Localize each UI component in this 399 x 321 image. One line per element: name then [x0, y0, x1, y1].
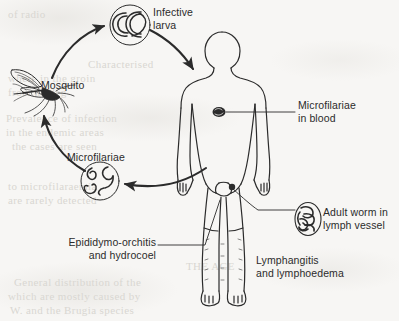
microfilariae-worms [84, 167, 113, 195]
label-microfilariae-cycle: Microfilariae [67, 151, 125, 164]
arrow-larva-to-human [150, 30, 193, 69]
infective-larva-worms [113, 12, 146, 37]
microfilariae-blood-blob [213, 107, 226, 117]
label-microfilariae-in-blood-line2: in blood [298, 112, 356, 125]
label-adult-worm-line2: lymph vessel [323, 219, 388, 232]
diagram-canvas: of radio Characterised where in the groi… [0, 0, 399, 321]
groin-dot [229, 184, 235, 190]
label-microfilariae-in-blood: Microfilariae in blood [298, 99, 356, 124]
label-infective-larva: Infective larva [153, 6, 193, 31]
leader-line-epididymo [158, 200, 220, 245]
label-infective-larva-line2: larva [153, 19, 193, 32]
label-adult-worm: Adult worm in lymph vessel [323, 206, 388, 231]
arrow-mosquito-to-larva [52, 26, 104, 78]
label-epididymo-orchitis-line2: and hydrocoel [22, 249, 156, 262]
label-microfilariae-in-blood-line1: Microfilariae [298, 99, 356, 112]
adult-worm-coils [298, 207, 314, 231]
label-infective-larva-line1: Infective [153, 6, 193, 19]
label-lymphangitis-line1: Lymphangitis [256, 254, 344, 267]
label-lymphangitis-line2: and lymphoedema [256, 267, 344, 280]
label-mosquito: Mosquito [41, 79, 84, 92]
mosquito-illustration [11, 70, 75, 116]
label-epididymo-orchitis-line1: Epididymo-orchitis [22, 236, 156, 249]
label-lymphangitis: Lymphangitis and lymphoedema [256, 254, 344, 279]
label-adult-worm-line1: Adult worm in [323, 206, 388, 219]
arrow-human-to-microfilariae [125, 168, 206, 186]
label-epididymo-orchitis: Epididymo-orchitis and hydrocoel [22, 236, 156, 261]
